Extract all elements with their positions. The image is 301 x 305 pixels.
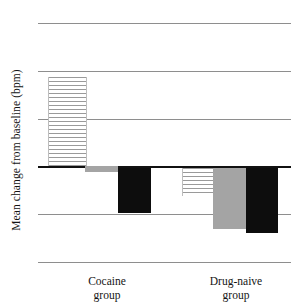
bar-cocaine-hatched (48, 77, 87, 166)
x-category-label-cocaine-line2: group (62, 289, 152, 303)
bar-cocaine-gray (85, 166, 118, 172)
x-category-label-cocaine: Cocaine group (62, 275, 152, 302)
bar-chart: Mean change from baseline (bpm) 6 4 2 0 … (0, 0, 301, 305)
y-axis-title: Mean change from baseline (bpm) (10, 40, 22, 260)
x-category-label-drug-naive: Drug-naive group (188, 275, 284, 302)
gridline-4 (38, 71, 291, 72)
gridline-6 (38, 23, 291, 24)
bar-cocaine-black (118, 168, 151, 213)
bar-drug-naive-gray (213, 168, 246, 229)
bar-drug-naive-black (246, 168, 278, 233)
bar-drug-naive-hatched (182, 168, 215, 196)
plot-area: 6 4 2 0 -2 -4 (38, 0, 291, 275)
gridline-minus-4 (38, 262, 291, 263)
x-category-label-drug-naive-line2: group (188, 289, 284, 303)
x-category-label-drug-naive-line1: Drug-naive (188, 275, 284, 289)
x-category-label-cocaine-line1: Cocaine (62, 275, 152, 289)
